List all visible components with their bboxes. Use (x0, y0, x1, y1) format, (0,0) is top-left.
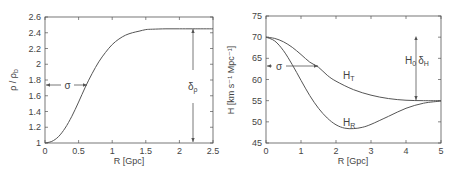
h0-delta-h-label: H0δH (405, 55, 429, 67)
x-tick-label: 3 (368, 146, 373, 156)
x-tick-label: 0.5 (72, 146, 85, 156)
left-sigma-arrow: σ (46, 80, 87, 91)
right-sigma-label: σ (276, 61, 283, 72)
figure: 00.511.522.511.21.41.61.822.22.42.6 σ δρ… (0, 0, 450, 175)
y-tick-label: 1.8 (28, 75, 41, 85)
y-tick-label: 45 (252, 138, 262, 148)
ht-label: HT (343, 70, 355, 82)
y-tick-label: 1.4 (28, 107, 41, 117)
y-tick-label: 1 (36, 138, 41, 148)
left-x-axis-label: R [Gpc] (114, 156, 145, 166)
y-tick-label: 1.2 (28, 122, 41, 132)
y-tick-label: 2.6 (28, 12, 41, 22)
y-tick-label: 60 (252, 75, 262, 85)
y-tick-label: 65 (252, 53, 262, 63)
left-panel: 00.511.522.511.21.41.61.822.22.42.6 σ δρ… (8, 12, 219, 166)
right-x-axis-label: R [Gpc] (338, 156, 369, 166)
x-tick-label: 2.5 (207, 146, 220, 156)
hr-curve (266, 37, 441, 129)
left-y-axis-label: ρ / ρb (8, 69, 19, 91)
x-tick-label: 0 (42, 146, 47, 156)
x-tick-label: 1 (110, 146, 115, 156)
x-tick-label: 1 (298, 146, 303, 156)
right-panel: 01234545505560657075 σ H0δH HT HR R [Gpc… (226, 11, 444, 166)
x-tick-label: 0 (263, 146, 268, 156)
left-sigma-label: σ (64, 80, 71, 91)
right-y-axis-label: H [km s⁻¹ Mpc⁻¹] (226, 46, 236, 115)
y-tick-label: 2.4 (28, 28, 41, 38)
delta-rho-label: δρ (188, 81, 198, 94)
y-tick-label: 75 (252, 11, 262, 21)
y-tick-label: 2 (36, 59, 41, 69)
delta-rho-arrow: δρ (188, 29, 198, 142)
x-tick-label: 5 (438, 146, 443, 156)
y-tick-label: 55 (252, 96, 262, 106)
hr-label: HR (343, 117, 355, 129)
x-tick-label: 4 (403, 146, 408, 156)
ht-curve (266, 37, 441, 101)
x-tick-label: 1.5 (140, 146, 153, 156)
x-tick-label: 2 (177, 146, 182, 156)
x-tick-label: 2 (333, 146, 338, 156)
y-tick-label: 2.2 (28, 44, 41, 54)
h0-delta-h-arrow: H0δH (405, 36, 429, 100)
y-tick-label: 1.6 (28, 91, 41, 101)
right-ticks: 01234545505560657075 (252, 11, 444, 156)
y-tick-label: 50 (252, 117, 262, 127)
y-tick-label: 70 (252, 32, 262, 42)
